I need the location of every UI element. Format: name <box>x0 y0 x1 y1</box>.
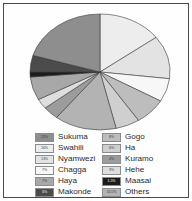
legend-swatch: 7% <box>35 177 54 185</box>
legend-label: Gogo <box>125 133 145 141</box>
legend-item: 13%Nyamwezi <box>35 154 100 165</box>
legend-label: Ha <box>125 144 135 152</box>
legend-item: 6%Ha <box>102 143 167 154</box>
legend-swatch: 3% <box>102 166 121 174</box>
legend-swatch: 1.5% <box>102 177 121 185</box>
legend-label: Haya <box>58 177 77 185</box>
legend-percent: 1.5% <box>108 180 116 184</box>
legend-percent: 7% <box>42 169 47 173</box>
legend-label: Makonde <box>58 188 91 196</box>
legend-label: Kuramo <box>125 155 153 163</box>
legend-item: 8%Gogo <box>102 132 167 143</box>
legend-swatch: 6% <box>102 144 121 152</box>
legend-percent: 4% <box>109 158 114 162</box>
legend-percent: 5% <box>42 191 47 195</box>
legend-swatch: 13% <box>35 155 54 163</box>
legend-item: 7%Chagga <box>35 165 100 176</box>
legend-percent: 6% <box>109 147 114 151</box>
legend-percent: 15.5% <box>107 191 117 195</box>
pie-chart-plot <box>26 12 174 132</box>
legend-percent: 22% <box>41 136 48 140</box>
figure-frame: 22%Sukuma16%Swahili13%Nyamwezi7%Chagga7%… <box>3 3 189 198</box>
legend-percent: 3% <box>109 169 114 173</box>
legend-column-left: 22%Sukuma16%Swahili13%Nyamwezi7%Chagga7%… <box>35 132 100 198</box>
legend-percent: 7% <box>42 180 47 184</box>
legend-swatch: 15.5% <box>102 188 121 196</box>
legend-item: 15.5%Others <box>102 187 167 198</box>
legend-swatch: 4% <box>102 155 121 163</box>
legend-label: Maasai <box>125 177 151 185</box>
legend-swatch: 22% <box>35 133 54 141</box>
legend-label: Hehe <box>125 166 144 174</box>
legend-item: 4%Kuramo <box>102 154 167 165</box>
legend-column-right: 8%Gogo6%Ha4%Kuramo3%Hehe1.5%Maasai15.5%O… <box>102 132 167 198</box>
legend-swatch: 8% <box>102 133 121 141</box>
legend-item: 22%Sukuma <box>35 132 100 143</box>
legend-item: 5%Makonde <box>35 187 100 198</box>
legend-percent: 16% <box>41 147 48 151</box>
chart-legend: 22%Sukuma16%Swahili13%Nyamwezi7%Chagga7%… <box>35 132 167 198</box>
legend-label: Sukuma <box>58 133 88 141</box>
legend-label: Nyamwezi <box>58 155 95 163</box>
legend-swatch: 5% <box>35 188 54 196</box>
legend-label: Others <box>125 188 149 196</box>
pie-slice-group <box>30 14 170 130</box>
pie-chart-figure: 22%Sukuma16%Swahili13%Nyamwezi7%Chagga7%… <box>0 0 192 201</box>
legend-item: 7%Haya <box>35 176 100 187</box>
legend-label: Swahili <box>58 144 84 152</box>
legend-swatch: 16% <box>35 144 54 152</box>
legend-percent: 13% <box>41 158 48 162</box>
pie-svg <box>26 12 174 132</box>
legend-item: 1.5%Maasai <box>102 176 167 187</box>
legend-item: 16%Swahili <box>35 143 100 154</box>
legend-label: Chagga <box>58 166 86 174</box>
legend-swatch: 7% <box>35 166 54 174</box>
legend-percent: 8% <box>109 136 114 140</box>
legend-item: 3%Hehe <box>102 165 167 176</box>
